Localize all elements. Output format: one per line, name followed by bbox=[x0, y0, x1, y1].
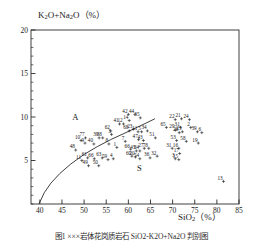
point-label: 39 bbox=[191, 125, 197, 131]
x-tick-label: 85 bbox=[235, 206, 243, 215]
point-label: 40 bbox=[88, 137, 94, 143]
data-point: 32 bbox=[151, 150, 158, 158]
y-tick-label: 5 bbox=[24, 156, 28, 165]
point-label: 15 bbox=[173, 153, 179, 159]
x-tick-label: 50 bbox=[80, 206, 88, 215]
data-point: 14 bbox=[123, 114, 130, 122]
x-tick-label: 45 bbox=[58, 206, 66, 215]
data-point: 48 bbox=[70, 143, 77, 151]
point-label: 49 bbox=[83, 159, 89, 165]
x-tick-label: 60 bbox=[125, 206, 133, 215]
point-label: 24 bbox=[183, 113, 189, 119]
point-label: 2 bbox=[187, 121, 190, 127]
tas-diagram-figure: K2O+Na2O（%） SiO2（%） 51015204045505560657… bbox=[0, 0, 255, 242]
field-label-a: A bbox=[72, 112, 79, 122]
x-tick-label: 70 bbox=[169, 206, 177, 215]
point-label: 59 bbox=[102, 153, 108, 159]
point-label: 36 bbox=[144, 151, 150, 157]
data-point: 34 bbox=[141, 124, 148, 132]
point-label: 22 bbox=[169, 113, 175, 119]
point-label: 9 bbox=[82, 137, 85, 143]
point-label: 6 bbox=[198, 126, 201, 132]
point-label: 58 bbox=[180, 135, 186, 141]
data-point: 25 bbox=[176, 125, 183, 133]
y-tick-label: 10 bbox=[21, 113, 29, 122]
point-label: 66 bbox=[125, 143, 131, 149]
point-label: 61 bbox=[82, 151, 88, 157]
data-point: 21 bbox=[175, 112, 182, 120]
point-label: 8 bbox=[105, 137, 108, 143]
data-point: 4 bbox=[110, 152, 115, 160]
point-label: 38 bbox=[97, 131, 103, 137]
point-label: 34 bbox=[141, 124, 147, 130]
data-point: 54 bbox=[134, 152, 141, 160]
data-point: 59 bbox=[102, 153, 109, 161]
x-tick-label: 75 bbox=[191, 206, 199, 215]
figure-caption: 图1 ×××岩体花岗质岩石 SiO2-K2O+Na2O 判别图 bbox=[24, 230, 239, 241]
point-label: 51 bbox=[149, 131, 155, 137]
point-label: 7 bbox=[122, 135, 125, 141]
data-point: 6 bbox=[198, 126, 203, 134]
point-label: 31 bbox=[166, 142, 172, 148]
plot-canvas: 510152040455055606570758085AS48107791161… bbox=[0, 0, 255, 242]
point-label: 11 bbox=[132, 125, 137, 131]
point-label: 65 bbox=[160, 121, 166, 127]
point-label: 35 bbox=[134, 111, 140, 117]
x-tick-label: 65 bbox=[147, 206, 155, 215]
point-label: 78 bbox=[143, 142, 149, 148]
point-label: 14 bbox=[123, 114, 129, 120]
point-label: 12 bbox=[118, 117, 124, 123]
data-point: 19 bbox=[192, 137, 199, 145]
point-label: 1 bbox=[113, 141, 116, 147]
data-point: 58 bbox=[180, 135, 187, 143]
point-label: 32 bbox=[151, 150, 157, 156]
point-label: 3 bbox=[108, 128, 111, 134]
data-point: 35 bbox=[134, 111, 141, 119]
point-label: 42 bbox=[122, 108, 128, 114]
point-label: 63 bbox=[96, 151, 102, 157]
data-point: 51 bbox=[149, 131, 156, 139]
data-point: 8 bbox=[105, 137, 110, 145]
field-label-s: S bbox=[137, 163, 142, 173]
data-point: 1 bbox=[113, 141, 118, 149]
y-tick-label: 15 bbox=[21, 69, 29, 78]
point-label: 54 bbox=[134, 152, 140, 158]
data-point: 50 bbox=[93, 159, 100, 167]
point-label: 53 bbox=[171, 134, 177, 140]
point-label: 50 bbox=[93, 159, 99, 165]
point-label: 21 bbox=[175, 112, 181, 118]
point-label: 13 bbox=[218, 175, 224, 181]
point-label: 25 bbox=[176, 125, 182, 131]
x-tick-label: 40 bbox=[36, 206, 44, 215]
data-point: 3 bbox=[108, 128, 113, 136]
data-point: 40 bbox=[88, 137, 95, 145]
point-label: 19 bbox=[192, 137, 198, 143]
x-tick-label: 80 bbox=[213, 206, 221, 215]
point-label: 66 bbox=[88, 152, 94, 158]
data-point: 13 bbox=[218, 175, 225, 183]
data-point: 49 bbox=[83, 159, 90, 167]
data-point: 65 bbox=[160, 121, 167, 129]
x-tick-label: 55 bbox=[102, 206, 110, 215]
y-tick-label: 20 bbox=[21, 26, 29, 35]
point-label: 4 bbox=[110, 152, 113, 158]
data-point: 15 bbox=[173, 153, 180, 161]
point-label: 48 bbox=[70, 143, 76, 149]
point-label: 43 bbox=[137, 134, 143, 140]
